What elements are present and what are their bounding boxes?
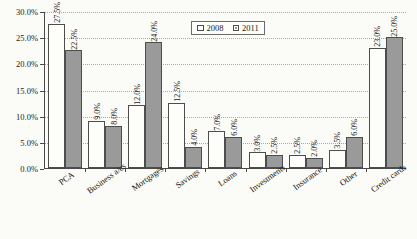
x-axis-category-label: PCA xyxy=(57,170,76,187)
x-axis-category: Mortgages xyxy=(124,171,164,237)
bar-group: 12.5%4.0% xyxy=(165,12,205,168)
x-axis-labels: PCABusiness a/csMortgagesSavingsLoansInv… xyxy=(44,171,406,237)
x-axis-category-label: Other xyxy=(338,169,359,188)
bar-group: 3.5%6.0% xyxy=(326,12,366,168)
bar-value-label: 12.0% xyxy=(132,84,141,105)
chart-legend: 2008 2011 xyxy=(191,21,265,35)
bar-value-label: 6.0% xyxy=(229,119,238,136)
bar-group: 9.0%8.0% xyxy=(85,12,125,168)
legend-item-2008: 2008 xyxy=(197,24,224,33)
bar-2008[interactable]: 12.5% xyxy=(168,103,185,168)
y-axis-tick-label: 20.0% xyxy=(0,60,38,69)
y-axis-tick-label: 30.0% xyxy=(0,8,38,17)
bar-value-label: 23.0% xyxy=(373,26,382,47)
bar-2008[interactable]: 9.0% xyxy=(88,121,105,168)
bar-value-label: 2.0% xyxy=(310,140,319,157)
x-axis-category: Credit cards xyxy=(366,171,406,237)
bar-value-label: 6.0% xyxy=(350,119,359,136)
legend-item-2011: 2011 xyxy=(233,24,259,33)
bar-value-label: 7.0% xyxy=(212,114,221,131)
legend-swatch-2008-icon xyxy=(197,25,204,32)
bar-group: 7.0%6.0% xyxy=(205,12,245,168)
y-axis-tick-mark xyxy=(40,169,44,170)
bar-group: 27.5%22.5% xyxy=(45,12,85,168)
plot-area: 27.5%22.5%9.0%8.0%12.0%24.0%12.5%4.0%7.0… xyxy=(44,12,406,169)
x-axis-category: Savings xyxy=(165,171,205,237)
bar-group: 23.0%25.0% xyxy=(366,12,406,168)
y-axis-tick-label: 10.0% xyxy=(0,113,38,122)
bar-value-label: 3.0% xyxy=(253,135,262,152)
bar-value-label: 8.0% xyxy=(109,108,118,125)
y-axis-tick-label: 0.0% xyxy=(0,165,38,174)
bar-value-label: 2.5% xyxy=(293,137,302,154)
bar-value-label: 4.0% xyxy=(189,129,198,146)
bar-2011[interactable]: 6.0% xyxy=(346,137,363,168)
x-axis-category: Business a/cs xyxy=(84,171,124,237)
bar-value-label: 12.5% xyxy=(172,81,181,102)
bar-group: 2.5%2.0% xyxy=(286,12,326,168)
bar-2011[interactable]: 25.0% xyxy=(386,37,403,168)
x-axis-category: Other xyxy=(326,171,366,237)
bar-2011[interactable]: 24.0% xyxy=(145,42,162,168)
bar-value-label: 22.5% xyxy=(69,29,78,50)
bar-value-label: 25.0% xyxy=(390,16,399,37)
bar-value-label: 2.5% xyxy=(270,137,279,154)
x-axis-category: Investments xyxy=(245,171,285,237)
bar-group: 12.0%24.0% xyxy=(125,12,165,168)
legend-swatch-2011-icon xyxy=(233,25,240,32)
x-axis-category-label: Insurance xyxy=(292,165,324,192)
bar-groups: 27.5%22.5%9.0%8.0%12.0%24.0%12.5%4.0%7.0… xyxy=(45,12,406,168)
x-axis-category: Insurance xyxy=(285,171,325,237)
bar-2008[interactable]: 2.5% xyxy=(289,155,306,168)
y-axis-tick-label: 25.0% xyxy=(0,34,38,43)
bar-2008[interactable]: 3.0% xyxy=(249,152,266,168)
bar-2011[interactable]: 22.5% xyxy=(65,50,82,168)
bar-2008[interactable]: 7.0% xyxy=(208,131,225,168)
bar-value-label: 3.5% xyxy=(333,132,342,149)
y-axis-tick-label: 5.0% xyxy=(0,139,38,148)
bar-2011[interactable]: 6.0% xyxy=(225,137,242,168)
x-axis-category: Loans xyxy=(205,171,245,237)
bar-group: 3.0%2.5% xyxy=(246,12,286,168)
x-axis-category-label: Savings xyxy=(174,167,201,190)
legend-label-2011: 2011 xyxy=(242,24,259,33)
x-axis-category-label: Loans xyxy=(217,169,239,188)
bar-2008[interactable]: 23.0% xyxy=(369,48,386,168)
bar-2008[interactable]: 3.5% xyxy=(329,150,346,168)
bar-value-label: 27.5% xyxy=(52,2,61,23)
bar-2011[interactable]: 4.0% xyxy=(185,147,202,168)
bar-value-label: 9.0% xyxy=(92,103,101,120)
x-axis-category: PCA xyxy=(44,171,84,237)
legend-label-2008: 2008 xyxy=(207,24,224,33)
bar-chart: 0.0%5.0%10.0%15.0%20.0%25.0%30.0% 27.5%2… xyxy=(0,0,417,239)
bar-value-label: 24.0% xyxy=(149,21,158,42)
y-axis-tick-label: 15.0% xyxy=(0,87,38,96)
bar-2008[interactable]: 27.5% xyxy=(48,24,65,168)
bar-2008[interactable]: 12.0% xyxy=(128,105,145,168)
